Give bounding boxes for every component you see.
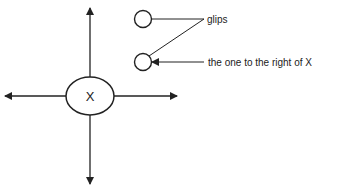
- center-node-label: X: [86, 89, 95, 104]
- glip-node-bottom: [135, 54, 152, 71]
- glip-node-top: [135, 11, 152, 28]
- diagram-canvas: X glips the one to the right of X: [0, 0, 352, 194]
- glips-line-diagonal: [149, 19, 204, 56]
- glips-label: glips: [207, 14, 228, 25]
- right-of-x-label: the one to the right of X: [208, 57, 312, 68]
